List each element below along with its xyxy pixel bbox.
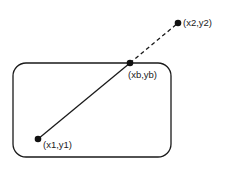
label-x1y1: (x1,y1) <box>43 139 72 150</box>
label-x2y2: (x2,y2) <box>183 17 212 28</box>
point-x2y2 <box>175 20 182 27</box>
point-xbyb <box>127 60 134 67</box>
clipping-diagram: (x1,y1) (xb,yb) (x2,y2) <box>0 0 226 171</box>
point-x1y1 <box>35 136 42 143</box>
label-xbyb: (xb,yb) <box>128 69 157 80</box>
inside-segment <box>38 63 130 139</box>
outside-segment-dashed <box>130 23 178 63</box>
